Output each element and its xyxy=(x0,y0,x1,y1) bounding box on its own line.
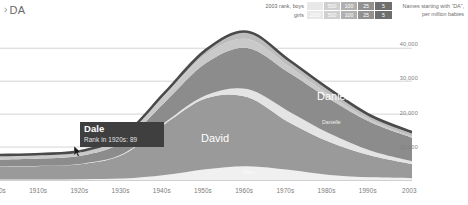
breadcrumb-label: DA xyxy=(10,4,26,16)
tooltip-title: Dale xyxy=(84,124,159,135)
legend-cell[interactable]: 1000 xyxy=(307,11,324,19)
legend-caption-girls: girls xyxy=(294,12,304,18)
legend-cell[interactable]: 25 xyxy=(358,2,375,10)
y-axis-label: 20,000 xyxy=(400,110,418,116)
x-axis-tick: 2003 xyxy=(402,187,417,194)
name-voyager-chart-app: › DA 2003 rank, boys 500 100 25 5 girls … xyxy=(0,0,468,205)
chart-caption: Names starting with “DA”, per million ba… xyxy=(398,2,464,19)
tooltip: Dale Rank in 1920s: 89 xyxy=(80,122,164,147)
chevron-right-icon: › xyxy=(4,5,8,15)
legend-cell[interactable]: 100 xyxy=(341,11,358,19)
y-axis-label: 40,000 xyxy=(400,41,418,47)
legend-cell[interactable]: 5 xyxy=(375,11,392,19)
stacked-area-plot[interactable] xyxy=(0,22,412,180)
rank-legend: 2003 rank, boys 500 100 25 5 girls 1000 … xyxy=(266,2,392,19)
legend-cell[interactable] xyxy=(307,2,324,10)
legend-cell[interactable]: 25 xyxy=(358,11,375,19)
x-axis-tick: 1970s xyxy=(276,187,294,194)
x-axis-tick: 1910s xyxy=(29,187,47,194)
x-axis-tick: 1920s xyxy=(70,187,88,194)
legend-cells-girls: 1000 500 100 25 5 xyxy=(307,11,392,19)
legend-row-girls: girls 1000 500 100 25 5 xyxy=(294,11,392,19)
y-axis-label: 10,000 xyxy=(400,144,418,150)
x-axis-tick: 1940s xyxy=(153,187,171,194)
legend-cell[interactable]: 100 xyxy=(341,2,358,10)
x-axis: 1900s1910s1920s1930s1940s1950s1960s1970s… xyxy=(0,180,468,205)
x-axis-tick: 1980s xyxy=(318,187,336,194)
x-axis-tick: 1950s xyxy=(194,187,212,194)
legend-row-boys: 2003 rank, boys 500 100 25 5 xyxy=(266,2,392,10)
legend-cells-boys: 500 100 25 5 xyxy=(307,2,392,10)
x-axis-tick: 1990s xyxy=(359,187,377,194)
legend-cell[interactable]: 500 xyxy=(324,11,341,19)
legend-cell[interactable]: 5 xyxy=(375,2,392,10)
x-axis-tick: 1960s xyxy=(235,187,253,194)
x-axis-rule xyxy=(0,180,412,181)
area-chart-svg xyxy=(0,22,412,180)
breadcrumb[interactable]: › DA xyxy=(4,4,25,16)
y-axis-label: 30,000 xyxy=(400,75,418,81)
legend-caption-boys: 2003 rank, boys xyxy=(266,3,304,9)
x-axis-tick: 1900s xyxy=(0,187,6,194)
legend-cell[interactable]: 500 xyxy=(324,2,341,10)
x-axis-tick: 1930s xyxy=(112,187,130,194)
tooltip-subtitle: Rank in 1920s: 89 xyxy=(84,136,159,144)
